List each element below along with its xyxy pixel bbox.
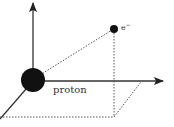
floor-diagonal-line <box>114 82 141 117</box>
proton-label: proton <box>53 84 87 95</box>
electron-charge: − <box>126 21 131 28</box>
electron-sphere <box>110 25 118 33</box>
proton-sphere <box>21 68 45 92</box>
proton-electron-diagram: proton e− <box>0 0 174 127</box>
proton-electron-line <box>40 30 112 75</box>
electron-label: e− <box>121 21 131 32</box>
